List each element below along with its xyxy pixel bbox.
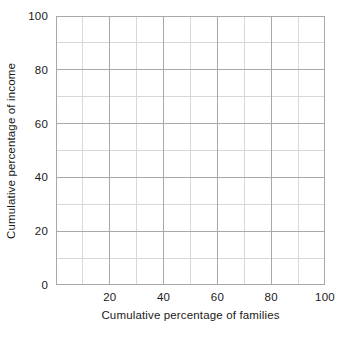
x-tick-label-60: 60 [194, 291, 240, 303]
x-tick-label-20: 20 [87, 291, 133, 303]
grid-lines [56, 16, 325, 285]
x-tick-label-40: 40 [141, 291, 187, 303]
x-axis-tick-labels: 20 40 60 80 100 [56, 291, 325, 305]
x-axis-title: Cumulative percentage of families [56, 309, 325, 321]
y-axis-title-container: Cumulative percentage of income [0, 16, 22, 285]
x-tick-label-80: 80 [248, 291, 294, 303]
chart-figure: 100 80 60 40 20 0 20 40 60 80 100 Cumula… [0, 0, 342, 337]
x-tick-label-100: 100 [302, 291, 342, 303]
y-axis-title: Cumulative percentage of income [5, 63, 17, 239]
plot-area [56, 16, 325, 285]
